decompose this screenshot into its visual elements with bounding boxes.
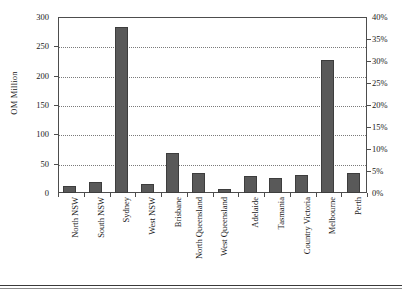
bar-series — [58, 17, 367, 193]
y-tick-label: 0 — [45, 189, 49, 198]
y-tick-label: 200 — [36, 72, 49, 81]
bar-cell — [264, 17, 288, 193]
x-label-perth: Perth — [353, 197, 363, 215]
y-tick-mark — [54, 164, 58, 165]
y-tick-label: 300 — [36, 13, 49, 22]
y-tick-label-right: 20% — [372, 101, 388, 110]
x-label-cell: North Queensland — [187, 197, 211, 269]
x-label-cell: West NSW — [135, 197, 159, 269]
bar-cell — [290, 17, 314, 193]
bar-cell — [110, 17, 134, 193]
x-label-north-nsw: North NSW — [70, 197, 80, 238]
x-label-cell: South NSW — [84, 197, 108, 269]
y-tick-label: 150 — [36, 101, 49, 110]
x-label-cell: Brisbane — [161, 197, 185, 269]
x-axis-labels: North NSW South NSW Sydney West NSW Bris… — [58, 197, 367, 269]
bar-cell — [238, 17, 262, 193]
bar-cell — [135, 17, 159, 193]
y-tick-mark — [54, 134, 58, 135]
bar-north-queensland[interactable] — [192, 173, 205, 193]
bar-cell — [341, 17, 365, 193]
bar-chart: OM Million — [0, 0, 402, 270]
y-tick-label-right: 35% — [372, 35, 388, 44]
bar-west-nsw[interactable] — [141, 184, 154, 193]
x-label-sydney: Sydney — [121, 197, 131, 223]
y-tick-mark — [54, 46, 58, 47]
x-label-south-nsw: South NSW — [96, 197, 106, 238]
y-tick-label-right: 0% — [372, 189, 383, 198]
bar-sydney[interactable] — [115, 27, 128, 193]
y-tick-label-right: 40% — [372, 13, 388, 22]
bar-cell — [58, 17, 82, 193]
x-label-cell: Country Victoria — [290, 197, 314, 269]
bar-north-nsw[interactable] — [63, 186, 76, 193]
y-tick-label-right: 5% — [372, 167, 383, 176]
y-tick-mark-right — [367, 61, 371, 62]
y-tick-mark-right — [367, 83, 371, 84]
x-label-country-victoria: Country Victoria — [302, 197, 312, 254]
x-label-cell: Adelaide — [238, 197, 262, 269]
x-label-north-queensland: North Queensland — [194, 197, 204, 259]
x-label-cell: Perth — [341, 197, 365, 269]
y-tick-label-right: 25% — [372, 79, 388, 88]
x-label-cell: West Queensland — [213, 197, 237, 269]
bar-cell — [316, 17, 340, 193]
y-tick-label-right: 15% — [372, 123, 388, 132]
x-label-cell: Tasmania — [264, 197, 288, 269]
bar-cell — [84, 17, 108, 193]
y-tick-mark-right — [367, 105, 371, 106]
y-tick-mark-right — [367, 39, 371, 40]
y-axis-left: 300 250 200 150 100 50 0 — [0, 0, 56, 210]
chart-page: OM Million — [0, 0, 402, 296]
y-tick-mark — [54, 105, 58, 106]
y-tick-label-right: 10% — [372, 145, 388, 154]
x-label-brisbane: Brisbane — [173, 197, 183, 227]
x-label-west-queensland: West Queensland — [219, 197, 229, 256]
y-tick-label: 100 — [36, 130, 49, 139]
bar-cell — [187, 17, 211, 193]
bar-country-victoria[interactable] — [295, 175, 308, 193]
bar-tasmania[interactable] — [269, 178, 282, 193]
bar-cell — [161, 17, 185, 193]
bar-south-nsw[interactable] — [89, 182, 102, 193]
bar-cell — [213, 17, 237, 193]
x-label-cell: Melbourne — [316, 197, 340, 269]
x-label-cell: North NSW — [58, 197, 82, 269]
y-axis-right: 40% 35% 30% 25% 20% 15% 10% 5% 0% — [370, 0, 402, 210]
x-label-west-nsw: West NSW — [147, 197, 157, 235]
bar-perth[interactable] — [347, 173, 360, 193]
y-tick-mark-right — [367, 171, 371, 172]
x-label-cell: Sydney — [110, 197, 134, 269]
y-tick-mark — [54, 76, 58, 77]
x-label-tasmania: Tasmania — [276, 197, 286, 229]
bar-west-queensland[interactable] — [218, 189, 231, 193]
y-tick-mark-right — [367, 149, 371, 150]
x-label-melbourne: Melbourne — [327, 197, 337, 234]
bar-brisbane[interactable] — [166, 153, 179, 193]
page-divider-shadow — [0, 288, 402, 289]
bar-adelaide[interactable] — [244, 176, 257, 193]
bar-melbourne[interactable] — [321, 60, 334, 193]
y-tick-mark-right — [367, 127, 371, 128]
y-tick-label: 50 — [41, 160, 50, 169]
x-tick — [367, 193, 368, 197]
y-tick-label-right: 30% — [372, 57, 388, 66]
page-divider — [0, 285, 402, 286]
x-label-adelaide: Adelaide — [250, 197, 260, 228]
y-tick-label: 250 — [36, 42, 49, 51]
